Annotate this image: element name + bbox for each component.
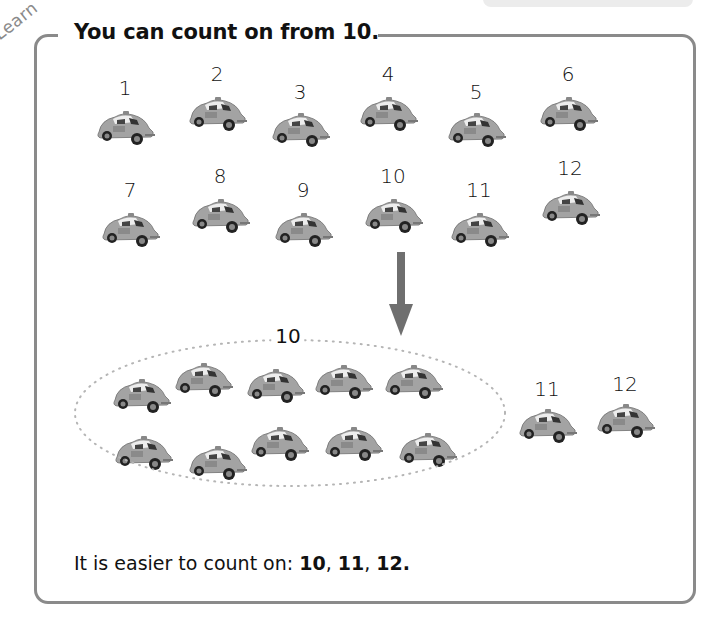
group-label: 10 [271, 324, 304, 348]
separator: , [364, 552, 376, 574]
car-number-label: 2 [211, 62, 224, 86]
taxi-car-icon [93, 108, 157, 146]
car-number-label: 3 [294, 80, 307, 104]
taxi-car-icon [188, 196, 252, 234]
car-number-label: 11 [466, 178, 491, 202]
taxi-car-icon [536, 94, 600, 132]
car-number-label: 12 [557, 156, 582, 180]
car-number-label: 5 [470, 80, 483, 104]
separator: , [326, 552, 338, 574]
taxi-car-icon [268, 110, 332, 148]
taxi-car-icon [447, 210, 511, 248]
car-number-label: 6 [562, 62, 575, 86]
car-number-label: 10 [380, 164, 405, 188]
taxi-car-icon [538, 188, 602, 226]
car-number-label: 1 [119, 76, 132, 100]
taxi-car-icon [271, 210, 335, 248]
page-header-tab [483, 0, 693, 7]
taxi-car-icon [515, 406, 579, 444]
conclusion-number-10: 10 [299, 552, 325, 574]
group-of-ten-ellipse [72, 337, 508, 489]
taxi-car-icon [593, 401, 657, 439]
conclusion-prefix: It is easier to count on: [74, 552, 299, 574]
conclusion-text: It is easier to count on: 10, 11, 12. [74, 552, 410, 574]
car-number-label: 4 [382, 62, 395, 86]
taxi-car-icon [185, 94, 249, 132]
car-number-label: 11 [534, 377, 559, 401]
down-arrow-icon [387, 252, 415, 336]
taxi-car-icon [361, 196, 425, 234]
learn-tag: Learn [0, 0, 41, 44]
conclusion-number-11: 11 [338, 552, 364, 574]
car-number-label: 12 [612, 372, 637, 396]
taxi-car-icon [356, 94, 420, 132]
car-number-label: 8 [214, 164, 227, 188]
conclusion-number-12: 12. [376, 552, 410, 574]
car-number-label: 7 [124, 178, 137, 202]
taxi-car-icon [98, 210, 162, 248]
section-title: You can count on from 10. [74, 20, 379, 44]
car-number-label: 9 [297, 178, 310, 202]
taxi-car-icon [444, 110, 508, 148]
